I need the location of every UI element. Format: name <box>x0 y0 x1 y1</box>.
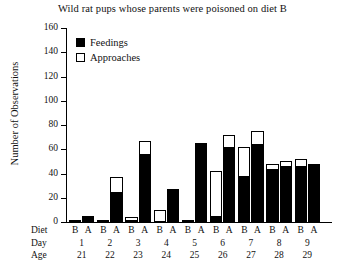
bar-day-9-diet-B-feedings-segment <box>296 166 306 221</box>
y-tick-label-100: 100 <box>32 96 58 106</box>
x-axis-line <box>66 222 332 223</box>
bar-day-8-diet-A <box>280 161 292 222</box>
row-label-age: Age <box>31 249 65 262</box>
bar-day-2-diet-A <box>110 177 122 222</box>
x-diet-label-A-day-3: A <box>138 224 151 237</box>
x-diet-label-A-day-4: A <box>166 224 179 237</box>
bar-day-9-diet-A <box>308 164 320 222</box>
bar-day-6-diet-A-feedings-segment <box>224 147 234 221</box>
x-diet-label-A-day-2: A <box>110 224 123 237</box>
x-diet-label-A-day-5: A <box>195 224 208 237</box>
plot-area <box>67 28 331 222</box>
bar-day-7-diet-B-feedings-segment <box>239 176 249 221</box>
x-diet-label-B-day-5: B <box>181 224 194 237</box>
bar-day-4-diet-B <box>154 210 166 222</box>
x-diet-label-B-day-9: B <box>294 224 307 237</box>
x-day-label-3: 3 <box>125 237 151 250</box>
bar-group-day-8 <box>266 28 294 222</box>
x-diet-label-B-day-1: B <box>69 224 82 237</box>
bar-group-day-3 <box>125 28 153 222</box>
bar-day-3-diet-A <box>139 141 151 222</box>
y-axis-title: Number of Observations <box>9 34 20 194</box>
x-diet-label-A-day-8: A <box>279 224 292 237</box>
x-diet-label-B-day-6: B <box>210 224 223 237</box>
bar-group-day-9 <box>295 28 323 222</box>
x-axis-label-rows: Diet BABABABABABABABABA Day 123456789 Ag… <box>0 224 347 262</box>
bar-day-5-diet-B <box>182 220 194 222</box>
bar-day-8-diet-B <box>266 164 278 222</box>
y-tick-label-120: 120 <box>32 72 58 82</box>
x-axis-row-day: Day 123456789 <box>0 237 347 250</box>
bar-day-3-diet-B <box>125 217 137 222</box>
bar-day-2-diet-A-feedings-segment <box>111 192 121 221</box>
y-tick-label-140: 140 <box>32 47 58 57</box>
bar-day-1-diet-B-feedings-segment <box>70 220 80 221</box>
x-day-label-9: 9 <box>294 237 320 250</box>
bar-day-7-diet-A <box>251 131 263 222</box>
bar-day-2-diet-B <box>97 220 109 222</box>
x-diet-label-B-day-8: B <box>266 224 279 237</box>
bar-group-day-2 <box>97 28 125 222</box>
bar-day-5-diet-B-feedings-segment <box>183 220 193 221</box>
x-age-label-23: 23 <box>125 249 151 262</box>
x-day-label-8: 8 <box>266 237 292 250</box>
x-age-label-29: 29 <box>294 249 320 262</box>
y-tick-label-160: 160 <box>32 23 58 33</box>
x-day-label-4: 4 <box>153 237 179 250</box>
bar-day-4-diet-A-feedings-segment <box>168 189 178 221</box>
bar-group-day-1 <box>69 28 97 222</box>
bar-day-1-diet-A-feedings-segment <box>83 216 93 221</box>
bar-group-day-7 <box>238 28 266 222</box>
bar-day-2-diet-B-feedings-segment <box>98 220 108 221</box>
y-tick-label-20: 20 <box>32 193 58 203</box>
bar-day-7-diet-B <box>238 147 250 222</box>
x-diet-label-A-day-9: A <box>307 224 320 237</box>
bar-day-5-diet-A <box>195 143 207 222</box>
x-age-label-26: 26 <box>210 249 236 262</box>
bar-group-day-5 <box>182 28 210 222</box>
bar-day-3-diet-B-feedings-segment <box>126 220 136 221</box>
row-label-day: Day <box>31 237 65 250</box>
x-diet-label-A-day-6: A <box>223 224 236 237</box>
x-axis-row-diet: Diet BABABABABABABABABA <box>0 224 347 237</box>
bar-day-6-diet-B <box>210 171 222 222</box>
chart-title: Wild rat pups whose parents were poisone… <box>58 3 347 14</box>
x-diet-label-B-day-2: B <box>97 224 110 237</box>
bar-day-8-diet-B-feedings-segment <box>267 169 277 221</box>
x-age-label-27: 27 <box>238 249 264 262</box>
row-label-diet: Diet <box>31 224 65 237</box>
y-tick-label-60: 60 <box>32 144 58 154</box>
x-axis-row-age: Age 212223242526272829 <box>0 249 347 262</box>
bar-day-6-diet-A <box>223 135 235 222</box>
y-tick-label-80: 80 <box>32 120 58 130</box>
bar-day-1-diet-B <box>69 220 81 222</box>
y-tick-label-40: 40 <box>32 169 58 179</box>
bar-day-1-diet-A <box>82 216 94 222</box>
x-day-label-1: 1 <box>69 237 95 250</box>
x-diet-label-A-day-7: A <box>251 224 264 237</box>
x-age-label-25: 25 <box>182 249 208 262</box>
bar-day-6-diet-B-feedings-segment <box>211 216 221 221</box>
bar-day-7-diet-A-feedings-segment <box>252 144 262 221</box>
bar-day-4-diet-A <box>167 189 179 222</box>
x-diet-label-B-day-3: B <box>125 224 138 237</box>
x-diet-label-A-day-1: A <box>82 224 95 237</box>
x-age-label-21: 21 <box>69 249 95 262</box>
x-age-label-24: 24 <box>153 249 179 262</box>
x-day-label-6: 6 <box>210 237 236 250</box>
x-day-label-7: 7 <box>238 237 264 250</box>
x-diet-label-B-day-7: B <box>238 224 251 237</box>
bar-day-9-diet-B <box>295 159 307 222</box>
x-age-label-28: 28 <box>266 249 292 262</box>
x-age-label-22: 22 <box>97 249 123 262</box>
chart-container: Wild rat pups whose parents were poisone… <box>0 0 347 279</box>
bar-group-day-6 <box>210 28 238 222</box>
x-diet-label-B-day-4: B <box>153 224 166 237</box>
bar-day-9-diet-A-feedings-segment <box>309 165 319 221</box>
bar-day-3-diet-A-feedings-segment <box>140 154 150 221</box>
x-day-label-2: 2 <box>97 237 123 250</box>
x-day-label-5: 5 <box>182 237 208 250</box>
bar-day-8-diet-A-feedings-segment <box>281 166 291 221</box>
bar-day-5-diet-A-feedings-segment <box>196 143 206 221</box>
bar-group-day-4 <box>154 28 182 222</box>
